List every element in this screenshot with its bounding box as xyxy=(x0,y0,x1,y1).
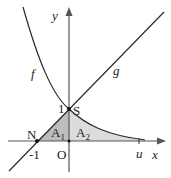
y-axis-label: y xyxy=(50,8,58,23)
point-s xyxy=(67,107,71,111)
u-label: u xyxy=(136,146,143,161)
point-o xyxy=(68,140,71,143)
x-tick-neg1: -1 xyxy=(29,147,40,162)
y-axis-arrow-icon xyxy=(66,7,73,16)
diagram-canvas: y x f g 1 S N -1 O u A1 A2 xyxy=(0,0,171,178)
curve-g-label: g xyxy=(113,63,120,78)
curve-f-label: f xyxy=(31,66,37,81)
y-tick-1: 1 xyxy=(58,101,65,116)
point-n-label: N xyxy=(27,127,37,142)
origin-label: O xyxy=(57,147,66,162)
curve-f xyxy=(23,7,145,140)
point-s-label: S xyxy=(73,103,80,118)
x-axis-label: x xyxy=(151,147,158,162)
x-axis-arrow-icon xyxy=(157,138,166,145)
